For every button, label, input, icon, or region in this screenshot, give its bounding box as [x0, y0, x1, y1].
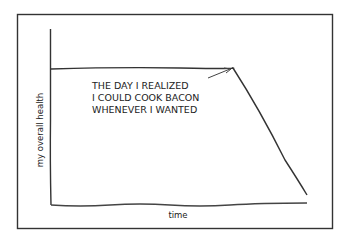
- y-axis: [50, 29, 51, 205]
- panel-border: [18, 15, 333, 229]
- x-axis-label: time: [168, 210, 187, 220]
- annotation-line-2: I COULD COOK BACON: [92, 92, 199, 103]
- y-axis-label: my overall health: [35, 93, 45, 168]
- annotation-line-3: WHENEVER I WANTED: [92, 104, 197, 115]
- annotation-line-1: THE DAY I REALIZED: [91, 80, 189, 91]
- comic-panel: THE DAY I REALIZED I COULD COOK BACON WH…: [0, 0, 349, 242]
